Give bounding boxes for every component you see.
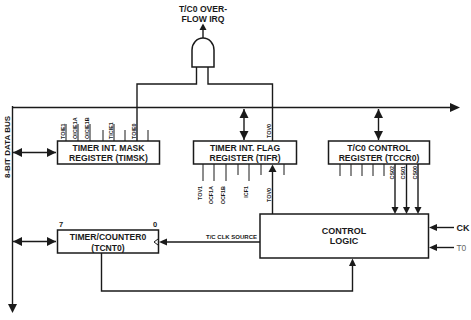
timsk-title-line1: TIMER INT. MASK — [72, 143, 145, 153]
tifr-top-bit-tov0: TOV0 — [266, 124, 272, 138]
tccr0-bit-ticks — [340, 164, 384, 176]
t0-left-arrow-icon — [429, 244, 437, 251]
t0-label: T0 — [457, 243, 467, 253]
timsk-title-line2: REGISTER (TIMSK) — [69, 153, 148, 163]
tifr-bit-ocf1a: OCF1A — [208, 186, 214, 204]
tccr0-bit-cs01: CS01 — [400, 166, 406, 180]
ck-label: CK — [457, 223, 470, 233]
tcnt0-msb-label: 7 — [59, 220, 63, 229]
data-bus-right-arrow-icon — [450, 103, 460, 112]
tifr-bus-up-arrow-icon — [240, 109, 249, 118]
cs00-down-arrow-icon — [415, 207, 422, 214]
tccr0-bit-cs02: CS02 — [389, 166, 395, 180]
cs02-down-arrow-icon — [392, 207, 399, 214]
timsk-bit-toie1: TOIE1 — [60, 124, 66, 139]
cs01-down-arrow-icon — [403, 207, 410, 214]
irq-up-arrow-icon — [200, 24, 207, 31]
tifr-bus-down-arrow-icon — [240, 131, 249, 140]
tccr0-bus-up-arrow-icon — [374, 109, 383, 118]
tifr-bit-tov1: TOV1 — [197, 186, 203, 200]
data-bus-label: 8-BIT DATA BUS — [3, 115, 12, 178]
irq-label-line1: T/C0 OVER- — [179, 4, 227, 14]
tifr-bit-tov0: TOV0 — [266, 188, 272, 202]
control-logic-title-line2: LOGIC — [330, 236, 359, 246]
tcnt0-lsb-label: 0 — [153, 220, 157, 229]
tifr-title-line1: TIMER INT. FLAG — [210, 143, 280, 153]
timsk-bit-ocie1b: OICIE1B — [84, 117, 90, 139]
tcnt0-bus-right-arrow-icon — [47, 237, 56, 246]
irq-label-line2: FLOW IRQ — [182, 14, 225, 24]
tcnt0-title-line2: (TCNT0) — [91, 243, 125, 253]
timsk-bit-ocie1a: OICIE1A — [72, 117, 78, 139]
timsk-bus-right-arrow-icon — [47, 148, 56, 157]
timsk-bit-ticie1: TICIE1 — [108, 122, 114, 139]
overflow-irq: T/C0 OVER- FLOW IRQ — [137, 4, 273, 142]
tifr-title-line2: REGISTER (TIFR) — [209, 153, 280, 163]
tov0-up-arrow-icon — [269, 165, 277, 173]
tov0-to-gate-wire — [208, 67, 273, 141]
tcnt0-title-line1: TIMER/COUNTER0 — [70, 232, 147, 242]
control-logic-title-line1: CONTROL — [322, 226, 367, 236]
toie0-to-gate-wire — [137, 67, 197, 141]
data-bus-down-arrow-icon — [8, 304, 17, 313]
control-up-arrow-icon — [349, 259, 356, 267]
timsk-bus-left-arrow-icon — [13, 148, 22, 157]
ck-left-arrow-icon — [429, 224, 437, 231]
tccr0-bus-down-arrow-icon — [374, 131, 383, 140]
tccr0-title-line2: REGISTER (TCCR0) — [339, 153, 420, 163]
control-logic: CONTROL LOGIC CK T0 — [260, 214, 470, 258]
tccr0-bit-cs00: CS00 — [412, 166, 418, 180]
tcnt0-bus-left-arrow-icon — [13, 237, 22, 246]
and-gate-icon — [192, 38, 214, 67]
timer-counter0-block-diagram: 8-BIT DATA BUS T/C0 OVER- FLOW IRQ TIMER… — [0, 0, 471, 320]
tifr-bit-ocf1b: OCF1B — [220, 186, 226, 204]
timsk-bit-toie0: TOIE0 — [131, 124, 137, 139]
tifr-register: TOV0 TIMER INT. FLAG REGISTER (TIFR) TOV… — [194, 109, 297, 214]
tccr0-title-line1: T/C0 CONTROL — [347, 143, 411, 153]
clk-source-label: T/C CLK SOURCE — [206, 234, 257, 240]
tifr-bit-icf1: ICF1 — [243, 186, 249, 198]
tccr0-register: T/C0 CONTROL REGISTER (TCCR0) CS02 CS01 … — [329, 109, 430, 214]
clk-source-left-arrow-icon — [159, 239, 167, 246]
